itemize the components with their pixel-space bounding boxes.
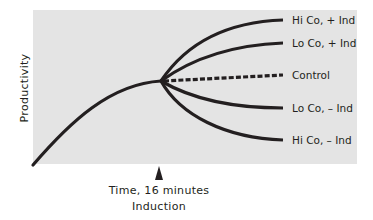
series-label-control: Control	[292, 69, 330, 81]
series-label-lo-co-minus-ind: Lo Co, – Ind	[292, 102, 353, 114]
curve-control	[164, 75, 283, 81]
series-label-hi-co-minus-ind: Hi Co, – Ind	[292, 134, 352, 146]
y-axis-label: Productivity	[18, 54, 31, 123]
induction-arrow-icon	[155, 166, 163, 180]
series-label-hi-co-plus-ind: Hi Co, + Ind	[292, 14, 355, 26]
induction-label: Induction	[132, 200, 186, 213]
pre-induction-curve	[33, 81, 161, 165]
x-axis-label: Time, 16 minutes	[109, 184, 210, 197]
series-label-lo-co-plus-ind: Lo Co, + Ind	[292, 37, 356, 49]
